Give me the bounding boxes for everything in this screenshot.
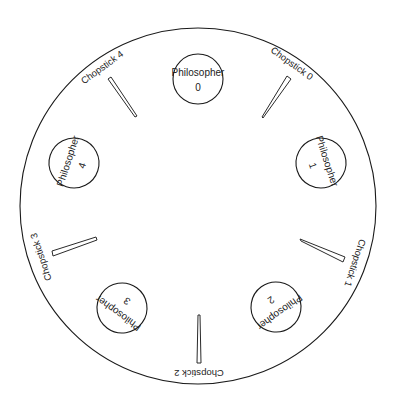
philosopher-0-circle [173,54,223,104]
philosopher-0-id: 0 [195,82,201,93]
chopstick-2-label: Chopstick 2 [174,368,224,379]
chopstick-4-shape [108,77,137,117]
philosopher-3-circle [87,273,157,343]
chopstick-0: Chopstick 0 [262,44,315,118]
chopstick-3: Chopstick 3 [28,232,97,283]
chopstick-1-shape [300,239,345,262]
philosopher-1: Philosopher 1 [289,130,353,196]
philosopher-2: Philosopher 2 [239,271,312,343]
philosopher-0: Philosopher 0 [172,54,225,104]
chopstick-1: Chopstick 1 [300,238,368,289]
chopstick-4-label: Chopstick 4 [79,48,126,86]
philosopher-2-circle [241,272,311,342]
chopstick-4: Chopstick 4 [79,48,137,117]
chopstick-0-label: Chopstick 0 [269,44,316,82]
chopstick-3-shape [52,237,97,256]
philosopher-0-label: Philosopher [172,67,225,78]
chopstick-1-label: Chopstick 1 [342,238,368,289]
chopstick-0-shape [262,76,291,118]
philosopher-4: Philosopher 4 [42,130,106,196]
chopstick-2: Chopstick 2 [174,315,224,379]
chopstick-2-shape [197,315,201,363]
dining-philosophers-diagram: Philosopher 0 Philosopher 1 Philosopher … [0,0,397,409]
philosopher-3: Philosopher 3 [85,272,158,344]
chopstick-3-label: Chopstick 3 [28,232,54,283]
